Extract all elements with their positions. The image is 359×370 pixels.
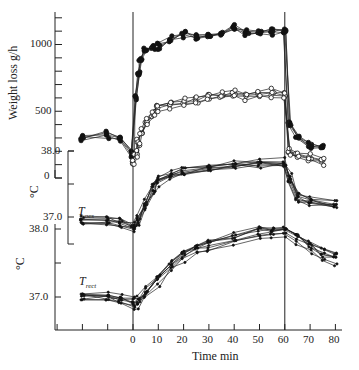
rect-tick-37: 37.0 [29,290,48,302]
x-tick-50: 50 [253,333,264,345]
ytick-500: 500 [35,104,52,116]
physiology-chart [0,0,359,370]
rect-name: T [79,274,86,288]
x-axis-label: Time min [192,349,239,364]
oes-unit-label: °C [27,185,42,198]
weight-loss-axis-label: Weight loss g/h [6,46,21,120]
x-tick-10: 10 [151,333,162,345]
x-tick-80: 80 [328,333,339,345]
x-tick-60: 60 [278,333,289,345]
oes-sub: oes [85,212,94,220]
x-tick-0: 0 [130,333,136,345]
oes-name: T [78,204,85,218]
rect-tick-38: 38.0 [29,222,48,234]
oes-series-label: Toes [78,204,94,220]
ytick-zero: 0 [44,169,50,181]
x-tick-30: 30 [202,333,213,345]
x-tick-40: 40 [227,333,238,345]
x-tick-20: 20 [177,333,188,345]
oes-tick-37: 37.0 [43,210,62,222]
ytick-1000: 1000 [30,37,52,49]
rect-series-label: Trect [79,274,96,290]
oes-tick-38: 38.0 [41,144,60,156]
rect-unit-label: °C [13,257,28,270]
rect-sub: rect [86,282,97,290]
x-tick-70: 70 [303,333,314,345]
